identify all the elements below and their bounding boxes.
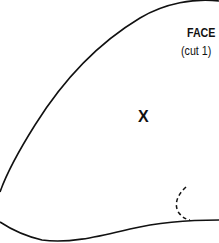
cut-instruction: (cut 1)	[181, 43, 211, 59]
piece-title: FACE	[187, 25, 215, 41]
center-mark: X	[138, 108, 149, 126]
pattern-bottom-curve	[0, 220, 219, 241]
dart-dashed-mark	[176, 187, 190, 220]
